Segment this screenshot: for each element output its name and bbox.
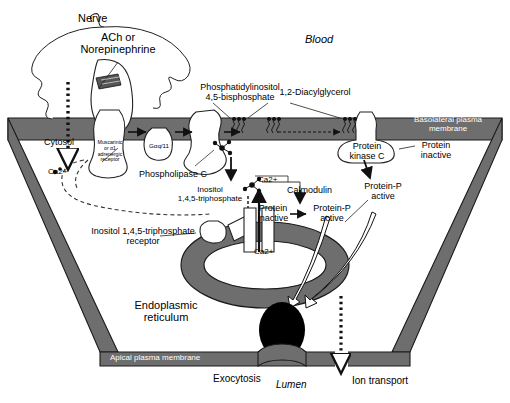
label-protein-inactive-mid: Protein inactive xyxy=(252,203,294,223)
label-basolateral-membrane: Basolateral plasma membrane xyxy=(400,116,496,134)
label-protein-kinase-c: Protein kinase C xyxy=(346,141,388,161)
phospholipase-c-protein xyxy=(184,110,226,175)
secretory-granule xyxy=(258,302,306,366)
label-cytosol: Cytosol xyxy=(44,137,74,147)
label-exocytosis: Exocytosis xyxy=(213,373,261,384)
label-calmodulin: Calmodulin xyxy=(287,185,332,195)
label-ca-cytosol: Ca2+ xyxy=(48,168,67,177)
label-g-protein: Gαq/11 xyxy=(145,143,173,150)
label-phospholipase-c: Phospholipase C xyxy=(125,169,221,179)
figure-canvas: Nerve ACh or Norepinephrine Blood Phosph… xyxy=(0,0,510,403)
label-ip3: Inositol 1,4,5-triphosphate xyxy=(168,186,252,204)
label-lumen: Lumen xyxy=(276,379,307,390)
label-ca-in-er: Ca2+ xyxy=(254,248,273,257)
label-ip3-receptor: Inositol 1,4,5-triphosphate receptor xyxy=(80,226,206,246)
label-protein-inactive-right: Protein inactive xyxy=(414,140,458,160)
diagram-vector-layer xyxy=(0,0,510,403)
label-receptor: Muscarinic or α1 adrenergic receptor xyxy=(94,140,126,163)
label-apical-membrane: Apical plasma membrane xyxy=(110,354,200,363)
label-neurotransmitter: ACh or Norepinephrine xyxy=(58,31,178,56)
label-blood: Blood xyxy=(305,33,333,45)
label-ca-near-ip3: Ca2+ xyxy=(258,176,277,185)
apical-membrane-gap xyxy=(335,350,348,368)
label-nerve: Nerve xyxy=(78,12,107,24)
label-protein-p-active-right: Protein-P active xyxy=(358,181,408,201)
label-dag: 1,2-Diacylglycerol xyxy=(270,87,360,97)
label-ion-transport: Ion transport xyxy=(352,375,408,386)
label-protein-p-active-mid: Protein-P active xyxy=(307,203,357,223)
label-endoplasmic-reticulum: Endoplasmic reticulum xyxy=(118,299,214,324)
